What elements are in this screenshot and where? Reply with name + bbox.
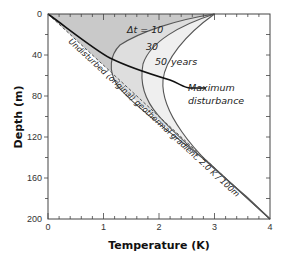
y-tick-40: 40 [32, 50, 42, 60]
x-tick-1: 1 [101, 222, 106, 232]
x-tick-2: 2 [156, 222, 161, 232]
label-disturbance: disturbance [188, 95, 244, 106]
fill-region-dt50 [142, 14, 270, 219]
y-tick-0: 0 [37, 9, 42, 19]
x-axis-title: Temperature (K) [108, 239, 210, 252]
y-tick-200: 200 [27, 214, 42, 224]
label-dt50: 50 [155, 56, 167, 67]
label-dt30: 30 [146, 41, 158, 52]
label-maximum: Maximum [188, 82, 235, 93]
label-years: years [170, 56, 197, 67]
y-tick-80: 80 [32, 91, 42, 101]
label-dt10: Δt = 10 [126, 24, 163, 35]
x-tick-4: 4 [267, 222, 272, 232]
depth-temperature-chart: 0 1 2 3 4 0 40 80 120 160 200 Temperatur… [0, 0, 282, 262]
x-tick-3: 3 [212, 222, 217, 232]
y-tick-labels: 0 40 80 120 160 200 [27, 9, 42, 224]
fill-region-dt30 [111, 14, 270, 219]
y-tick-160: 160 [27, 173, 42, 183]
x-tick-labels: 0 1 2 3 4 [45, 222, 272, 232]
x-tick-0: 0 [45, 222, 50, 232]
y-axis-title: Depth (m) [12, 86, 25, 149]
y-tick-120: 120 [27, 132, 42, 142]
